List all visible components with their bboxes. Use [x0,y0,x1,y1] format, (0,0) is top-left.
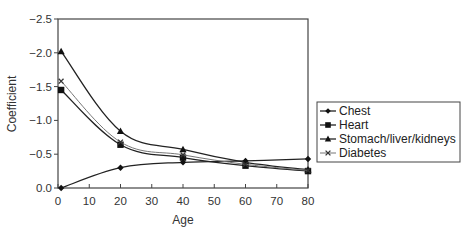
series-chest [58,156,311,191]
y-tick-label: 0.0 [36,182,52,194]
x-axis-title: Age [172,213,194,227]
y-axis: −2.5−2.0−1.5−1.0−0.50.0 [29,13,58,194]
square-marker-icon [325,122,331,128]
legend: ChestHeartStomach/liver/kidneysDiabetes [317,102,460,162]
x-tick-label: 0 [55,195,61,207]
x-tick-label: 30 [145,195,158,207]
legend-label: Chest [339,104,371,118]
series-layer [58,48,312,192]
diamond-marker-icon [117,165,123,171]
y-axis-title: Coefficient [5,75,19,132]
legend-label: Stomach/liver/kidneys [339,132,456,146]
y-tick-label: −2.5 [29,13,52,25]
x-tick-label: 20 [114,195,127,207]
x-marker-icon [59,79,64,84]
y-tick-label: −0.5 [29,148,52,160]
legend-label: Heart [339,118,369,132]
square-marker-icon [58,87,64,93]
y-tick-label: −2.0 [29,47,52,59]
diamond-marker-icon [58,185,64,191]
triangle-marker-icon [58,48,65,55]
x-tick-label: 70 [270,195,283,207]
x-tick-label: 80 [302,195,315,207]
x-tick-label: 50 [208,195,221,207]
y-tick-label: −1.0 [29,114,52,126]
x-tick-label: 60 [239,195,252,207]
x-tick-label: 40 [177,195,190,207]
diamond-marker-icon [305,156,311,162]
chart: −2.5−2.0−1.5−1.0−0.50.0 0102030405060708… [0,0,461,236]
x-tick-label: 10 [83,195,96,207]
y-tick-label: −1.5 [29,81,52,93]
legend-label: Diabetes [339,146,386,160]
legend-item-stomach-liver-kidneys: Stomach/liver/kidneys [320,132,456,146]
